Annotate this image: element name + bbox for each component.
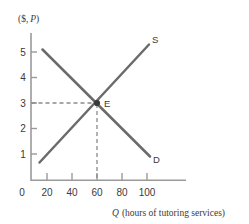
- supply-curve-label: S: [152, 34, 158, 45]
- supply-demand-chart: 5 4 3 2 1 0 20 40 60 80 100 S D E: [0, 0, 249, 224]
- equilibrium-label: E: [104, 98, 110, 109]
- equilibrium-marker: [94, 100, 100, 106]
- y-tick-label-4: 4: [20, 72, 26, 83]
- y-tick-label-1: 1: [20, 149, 26, 160]
- demand-curve-label: D: [153, 154, 160, 165]
- y-tick-label-3: 3: [20, 98, 26, 109]
- x-tick-label-60: 60: [91, 187, 103, 198]
- y-axis-label: ($,P): [18, 14, 39, 25]
- y-tick-label-2: 2: [20, 123, 26, 134]
- y-tick-label-5: 5: [20, 47, 26, 58]
- x-tick-label-100: 100: [139, 187, 156, 198]
- x-tick-label-0: 0: [19, 187, 25, 198]
- x-tick-label-40: 40: [66, 187, 78, 198]
- x-tick-label-20: 20: [41, 187, 53, 198]
- x-tick-label-80: 80: [116, 187, 128, 198]
- chart-canvas: 5 4 3 2 1 0 20 40 60 80 100 S D E: [0, 0, 249, 224]
- x-axis-label: Q(hours of tutoring services): [112, 208, 225, 219]
